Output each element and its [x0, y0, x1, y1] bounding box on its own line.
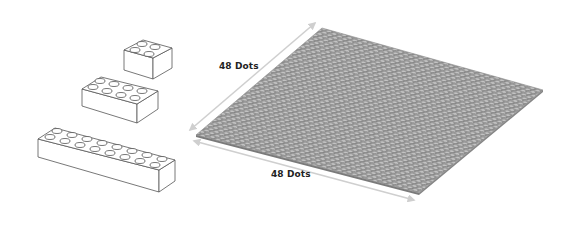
- brick-2x4: [82, 77, 158, 123]
- lego-size-diagram: 48 Dots 48 Dots: [0, 0, 579, 225]
- width-dimension-label: 48 Dots: [271, 169, 311, 179]
- baseplate-48x48: [196, 28, 543, 195]
- brick-2x2: [124, 40, 172, 79]
- brick-2x8: [38, 128, 175, 192]
- depth-dimension-label: 48 Dots: [219, 61, 259, 71]
